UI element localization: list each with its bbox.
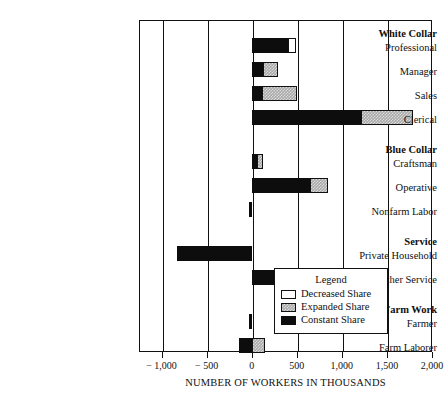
- bar-segment-constant: [249, 202, 251, 217]
- x-tick-2000: [432, 352, 433, 358]
- bar-segment-expanded: [252, 338, 265, 353]
- bar-segment-decreased: [288, 38, 296, 53]
- category-label-sales: Sales: [308, 90, 442, 101]
- category-label-manager: Manager: [308, 66, 442, 77]
- gridline--500: [208, 21, 209, 351]
- legend-title: Legend: [281, 273, 381, 286]
- bar-segment-constant: [177, 246, 252, 261]
- x-tick-0: [252, 352, 253, 358]
- x-tick-label-2000: 2,000: [402, 360, 448, 371]
- bar-segment-constant: [252, 38, 288, 53]
- legend-item-expanded: Expanded Share: [281, 301, 381, 313]
- category-label-clerical: Clerical: [308, 114, 442, 125]
- x-axis-title: NUMBER OF WORKERS IN THOUSANDS: [139, 377, 432, 388]
- legend-item-label: Decreased Share: [301, 288, 371, 300]
- legend-swatch-constant-icon: [281, 316, 296, 325]
- category-label-operative: Operative: [308, 182, 442, 193]
- category-label-private-household: Private Household: [308, 250, 442, 261]
- legend-item-label: Constant Share: [301, 314, 365, 326]
- category-label-craftsman: Craftsman: [308, 158, 442, 169]
- legend-item-decreased: Decreased Share: [281, 288, 381, 300]
- bar-segment-expanded: [257, 154, 263, 169]
- legend-item-constant: Constant Share: [281, 314, 381, 326]
- bar-segment-constant: [252, 86, 262, 101]
- category-label-farm-laborer: Farm Laborer: [308, 342, 442, 353]
- legend-swatch-expanded-icon: [281, 303, 296, 312]
- group-label-service: Service: [308, 236, 442, 247]
- bar-segment-constant: [252, 178, 311, 193]
- gridline--1000: [163, 21, 164, 351]
- legend-items: Decreased ShareExpanded ShareConstant Sh…: [281, 288, 381, 326]
- legend-item-label: Expanded Share: [301, 301, 370, 313]
- group-label-blue-collar: Blue Collar: [308, 144, 442, 155]
- bar-segment-constant: [239, 338, 252, 353]
- bar-segment-constant: [252, 62, 264, 77]
- x-tick-1500: [387, 352, 388, 358]
- bar-segment-expanded: [263, 62, 277, 77]
- x-tick-1000: [342, 352, 343, 358]
- bar-segment-constant: [249, 314, 252, 329]
- category-label-nonfarm-labor: Nonfarm Labor: [308, 206, 442, 217]
- category-axis-spine: [139, 20, 140, 352]
- legend-swatch-decreased-icon: [281, 290, 296, 299]
- group-label-white-collar: White Collar: [308, 28, 442, 39]
- x-tick--500: [207, 352, 208, 358]
- bar-segment-expanded: [262, 86, 297, 101]
- x-tick--1000: [162, 352, 163, 358]
- chart-legend: Legend Decreased ShareExpanded ShareCons…: [274, 268, 388, 334]
- x-tick-500: [297, 352, 298, 358]
- category-label-professional: Professional: [308, 42, 442, 53]
